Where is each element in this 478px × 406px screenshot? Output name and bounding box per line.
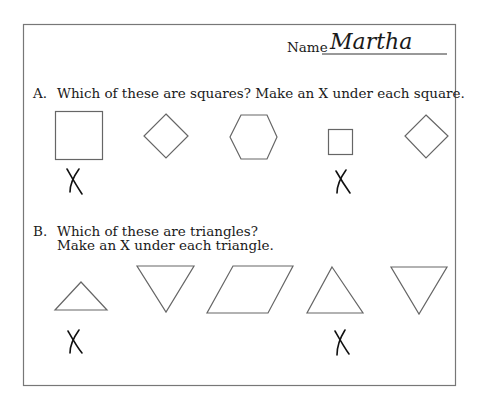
section-b-letter: B. bbox=[33, 223, 47, 239]
name-label: Name bbox=[287, 39, 328, 55]
section-b-prompt-line2: Make an X under each triangle. bbox=[57, 237, 274, 253]
worksheet: Name Martha A. Which of these are square… bbox=[0, 0, 478, 406]
name-value: Martha bbox=[329, 29, 412, 54]
worksheet-border bbox=[24, 25, 456, 386]
section-a-prompt: Which of these are squares? Make an X un… bbox=[57, 85, 465, 101]
section-a-letter: A. bbox=[32, 85, 47, 101]
